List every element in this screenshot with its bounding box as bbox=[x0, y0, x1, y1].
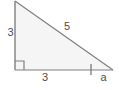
right-triangle-figure: 3 5 3 a bbox=[0, 0, 119, 90]
label-leg-horizontal: 3 bbox=[39, 72, 51, 83]
label-segment-a: a bbox=[98, 72, 109, 83]
label-leg-vertical: 3 bbox=[6, 27, 15, 38]
label-hypotenuse: 5 bbox=[61, 21, 73, 32]
